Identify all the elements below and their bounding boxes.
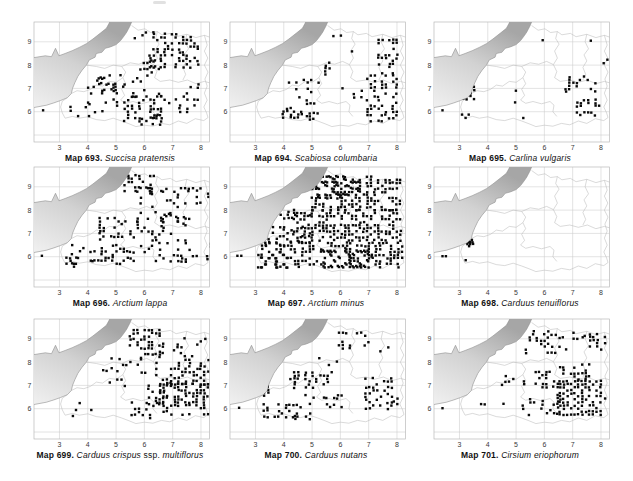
- svg-text:6: 6: [338, 289, 342, 296]
- map-number: Map 694.: [255, 153, 295, 163]
- distribution-map-panel: 3456786789Map 696. Arctium lappa: [24, 165, 216, 308]
- map-canvas: 3456786789: [24, 20, 216, 152]
- svg-text:4: 4: [282, 144, 286, 151]
- svg-text:7: 7: [171, 144, 175, 151]
- map-caption: Map 695. Carlina vulgaris: [424, 153, 616, 163]
- svg-text:5: 5: [514, 441, 518, 448]
- map-canvas: 3456786789: [424, 20, 616, 152]
- svg-text:6: 6: [142, 441, 146, 448]
- svg-text:6: 6: [338, 144, 342, 151]
- svg-text:4: 4: [86, 289, 90, 296]
- svg-text:8: 8: [199, 144, 203, 151]
- sea-area: [230, 22, 328, 108]
- svg-text:6: 6: [542, 441, 546, 448]
- species-name: Carduus tenuiflorus: [501, 298, 579, 308]
- svg-text:7: 7: [428, 85, 432, 92]
- svg-text:4: 4: [86, 144, 90, 151]
- svg-text:7: 7: [428, 382, 432, 389]
- svg-text:3: 3: [58, 289, 62, 296]
- svg-text:7: 7: [367, 289, 371, 296]
- svg-text:6: 6: [28, 108, 32, 115]
- sea-area: [434, 167, 532, 253]
- svg-text:8: 8: [224, 359, 228, 366]
- svg-text:8: 8: [28, 359, 32, 366]
- svg-text:3: 3: [58, 144, 62, 151]
- svg-text:7: 7: [571, 441, 575, 448]
- svg-text:8: 8: [395, 441, 399, 448]
- svg-text:4: 4: [282, 441, 286, 448]
- svg-text:8: 8: [224, 62, 228, 69]
- map-number: Map 698.: [461, 298, 501, 308]
- distribution-map-panel: 3456786789Map 699. Carduus crispus ssp. …: [24, 317, 216, 460]
- svg-text:8: 8: [395, 289, 399, 296]
- species-name: Carduus crispus ssp. multiflorus: [77, 450, 204, 460]
- svg-text:5: 5: [114, 144, 118, 151]
- distribution-map-panel: 3456786789Map 700. Carduus nutans: [220, 317, 412, 460]
- svg-text:7: 7: [28, 85, 32, 92]
- svg-text:8: 8: [599, 144, 603, 151]
- svg-text:3: 3: [254, 144, 258, 151]
- map-canvas: 3456786789: [424, 165, 616, 297]
- map-number: Map 697.: [268, 298, 308, 308]
- map-caption: Map 696. Arctium lappa: [24, 298, 216, 308]
- svg-text:6: 6: [142, 289, 146, 296]
- svg-text:6: 6: [428, 253, 432, 260]
- svg-text:7: 7: [367, 441, 371, 448]
- svg-text:8: 8: [395, 144, 399, 151]
- svg-text:6: 6: [542, 144, 546, 151]
- svg-text:4: 4: [486, 144, 490, 151]
- sea-area: [230, 319, 328, 405]
- map-number: Map 700.: [265, 450, 305, 460]
- svg-text:5: 5: [514, 289, 518, 296]
- map-caption: Map 694. Scabiosa columbaria: [220, 153, 412, 163]
- svg-text:4: 4: [486, 441, 490, 448]
- svg-text:7: 7: [571, 144, 575, 151]
- distribution-map-panel: 3456786789Map 693. Succisa pratensis: [24, 20, 216, 163]
- species-name: Carduus nutans: [305, 450, 368, 460]
- svg-text:6: 6: [224, 253, 228, 260]
- svg-text:5: 5: [310, 289, 314, 296]
- map-canvas: 3456786789: [220, 20, 412, 152]
- sea-area: [34, 167, 132, 253]
- map-number: Map 693.: [65, 153, 105, 163]
- svg-text:8: 8: [599, 289, 603, 296]
- svg-text:4: 4: [486, 289, 490, 296]
- svg-text:3: 3: [58, 441, 62, 448]
- sea-area: [34, 22, 132, 108]
- svg-text:7: 7: [171, 289, 175, 296]
- svg-text:6: 6: [542, 289, 546, 296]
- svg-text:3: 3: [458, 289, 462, 296]
- svg-text:9: 9: [28, 38, 32, 45]
- svg-text:8: 8: [224, 207, 228, 214]
- map-canvas: 3456786789: [220, 165, 412, 297]
- svg-text:7: 7: [571, 289, 575, 296]
- svg-text:9: 9: [28, 183, 32, 190]
- svg-text:3: 3: [254, 441, 258, 448]
- svg-text:3: 3: [254, 289, 258, 296]
- svg-text:9: 9: [428, 183, 432, 190]
- svg-text:8: 8: [428, 62, 432, 69]
- map-number: Map 699.: [37, 450, 77, 460]
- svg-text:5: 5: [114, 441, 118, 448]
- map-caption: Map 699. Carduus crispus ssp. multifloru…: [24, 450, 216, 460]
- map-canvas: 3456786789: [24, 317, 216, 449]
- svg-text:9: 9: [28, 335, 32, 342]
- map-canvas: 3456786789: [24, 165, 216, 297]
- svg-text:5: 5: [310, 441, 314, 448]
- svg-text:8: 8: [428, 359, 432, 366]
- map-number: Map 696.: [73, 298, 113, 308]
- svg-text:9: 9: [224, 38, 228, 45]
- map-caption: Map 701. Cirsium eriophorum: [424, 450, 616, 460]
- map-caption: Map 698. Carduus tenuiflorus: [424, 298, 616, 308]
- svg-text:7: 7: [224, 382, 228, 389]
- sea-area: [434, 319, 532, 405]
- species-name: Arctium minus: [308, 298, 364, 308]
- svg-text:8: 8: [199, 441, 203, 448]
- svg-text:3: 3: [458, 144, 462, 151]
- svg-text:6: 6: [28, 405, 32, 412]
- svg-text:3: 3: [458, 441, 462, 448]
- svg-text:6: 6: [142, 144, 146, 151]
- svg-text:9: 9: [224, 335, 228, 342]
- species-name: Cirsium eriophorum: [501, 450, 579, 460]
- svg-text:7: 7: [367, 144, 371, 151]
